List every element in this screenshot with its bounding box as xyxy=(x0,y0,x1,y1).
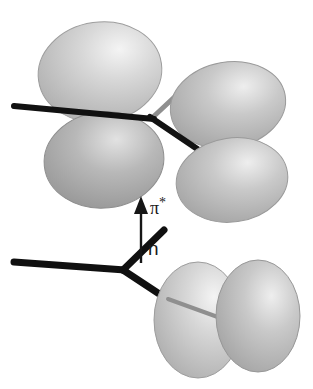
orbital-diagram: π* n xyxy=(0,0,313,389)
pi-glyph: π xyxy=(150,198,159,218)
n-lobe-right xyxy=(216,260,300,372)
diagram-canvas xyxy=(0,0,313,389)
n-bond-left xyxy=(14,262,125,270)
pi-star-label: π* xyxy=(150,196,166,217)
n-label: n xyxy=(148,239,159,258)
star-glyph: * xyxy=(159,195,166,210)
